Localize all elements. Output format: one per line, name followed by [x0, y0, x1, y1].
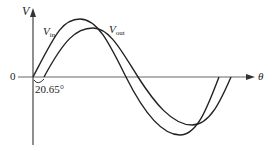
x-axis-arrow-icon — [246, 74, 255, 80]
diagram-canvas — [0, 0, 272, 151]
x-axis-label: θ — [258, 71, 263, 82]
origin-label: 0 — [10, 71, 16, 82]
y-axis-label: V — [22, 5, 29, 17]
vout-label: Vout — [109, 24, 125, 37]
phase-angle-label: 20.65° — [35, 84, 64, 95]
phase-shift-diagram: V 0 θ 20.65° Vin Vout — [0, 0, 272, 151]
vin-label: Vin — [43, 26, 55, 39]
y-axis-arrow-icon — [30, 8, 36, 17]
